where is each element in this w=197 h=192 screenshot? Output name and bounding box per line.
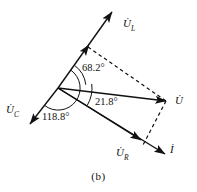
vector-subscript-u-l: L bbox=[131, 24, 135, 33]
vector-symbol-u-r: U̇ bbox=[116, 146, 124, 158]
angle-label-21: 21.8° bbox=[95, 97, 118, 108]
vector-symbol-u: U̇ bbox=[175, 94, 183, 106]
vector-symbol-u-l: U̇ bbox=[123, 17, 131, 29]
dashed-line-dash-u-ur bbox=[143, 101, 166, 145]
phasor-vector-group bbox=[30, 12, 166, 154]
label-u-l: U̇L bbox=[123, 18, 135, 32]
vector-subscript-u-r: R bbox=[124, 153, 129, 162]
figure-caption: (b) bbox=[0, 170, 197, 182]
label-i: İ bbox=[170, 144, 174, 155]
vector-symbol-i: İ bbox=[170, 143, 174, 155]
vector-symbol-u-c: U̇ bbox=[6, 103, 14, 115]
phasor-figure: U̇L U̇C U̇ U̇R İ 68.2° 21.8° 118.8° (b) bbox=[0, 0, 197, 192]
angle-label-68: 68.2° bbox=[82, 63, 105, 74]
angle-arc-21 bbox=[87, 84, 92, 105]
label-u-r: U̇R bbox=[116, 147, 129, 161]
label-u-c: U̇C bbox=[6, 104, 19, 118]
angle-label-118: 118.8° bbox=[42, 112, 69, 123]
phasor-vector-u-l bbox=[58, 12, 112, 88]
vector-subscript-u-c: C bbox=[14, 110, 19, 119]
label-u: U̇ bbox=[175, 95, 183, 106]
